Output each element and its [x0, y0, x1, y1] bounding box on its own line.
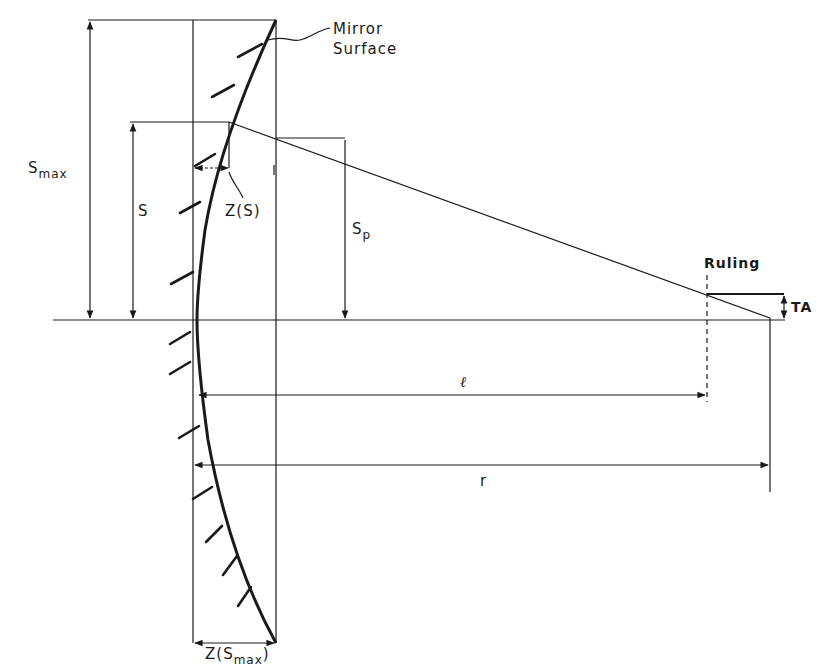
s-max-label: Smax [28, 161, 68, 176]
ray-line [229, 122, 770, 318]
mirror-surface-label: Mirror Surface [333, 22, 397, 57]
s-p-label: Sp [352, 222, 371, 237]
mirror-leader [268, 28, 330, 40]
z-s-leader [229, 172, 243, 198]
mirror-diagram [0, 0, 834, 667]
ta-label: TA [791, 300, 812, 314]
r-label: r [480, 474, 487, 489]
z-smax-label: Z(Smax) [205, 647, 270, 662]
mirror-curve [197, 20, 276, 643]
hatch-marks [170, 44, 262, 606]
l-label: ℓ [460, 375, 467, 390]
s-label: S [138, 204, 149, 219]
z-s-label: Z(S) [225, 204, 261, 219]
ruling-label: Ruling [704, 256, 760, 270]
